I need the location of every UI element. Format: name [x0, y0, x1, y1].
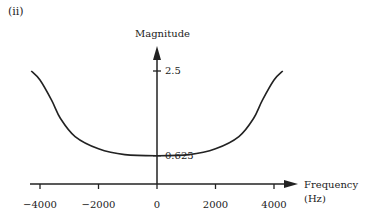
- x-axis-arrow-icon: [284, 180, 298, 188]
- x-tick-label: −4000: [23, 200, 57, 210]
- x-axis-unit: (Hz): [304, 194, 326, 204]
- y-tick-label: 0.625: [165, 151, 194, 161]
- y-tick-label: 2.5: [165, 66, 181, 76]
- x-tick-label: −2000: [82, 200, 116, 210]
- x-tick-label: 4000: [261, 200, 286, 210]
- y-axis-arrow-icon: [153, 46, 161, 60]
- x-axis-label: Frequency: [304, 180, 358, 190]
- y-axis-label: Magnitude: [135, 29, 190, 39]
- chart: (ii) Magnitude Frequency (Hz) −4000−2000…: [0, 0, 373, 220]
- x-tick-label: 0: [154, 200, 160, 210]
- x-tick-label: 2000: [203, 200, 228, 210]
